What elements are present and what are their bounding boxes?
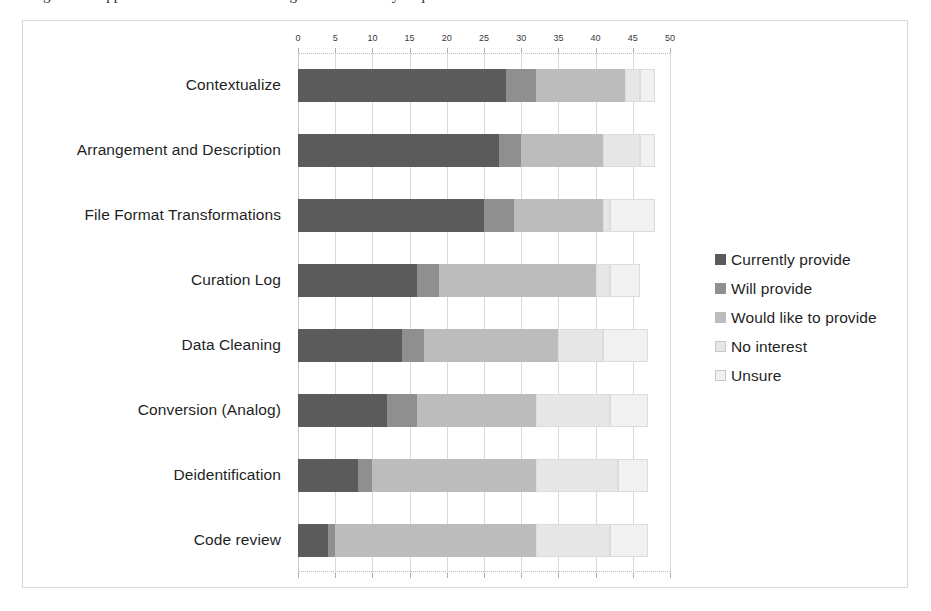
bar-segment[interactable] [298, 394, 387, 427]
bar-row [298, 183, 670, 248]
bar-segment[interactable] [610, 264, 640, 297]
legend-label: Would like to provide [731, 309, 877, 327]
bar-segment[interactable] [610, 394, 647, 427]
bar-segment[interactable] [335, 524, 536, 557]
figure-caption-strip: Figure 4. Support services offered / wil… [0, 0, 931, 14]
bar-row [298, 53, 670, 118]
category-label: Arrangement and Description [77, 141, 281, 159]
x-tick-bottom-40 [596, 573, 597, 578]
bar-segment[interactable] [603, 134, 640, 167]
x-tick-bottom-5 [335, 573, 336, 578]
category-label: Conversion (Analog) [138, 401, 281, 419]
bar-segment[interactable] [603, 329, 648, 362]
bar-segment[interactable] [625, 69, 640, 102]
bar-segment[interactable] [536, 524, 610, 557]
bar-segment[interactable] [536, 394, 610, 427]
category-label: Data Cleaning [181, 336, 281, 354]
bar-segment[interactable] [558, 329, 603, 362]
bar-track [298, 69, 670, 102]
x-tick-bottom-25 [484, 573, 485, 578]
bar-segment[interactable] [298, 199, 484, 232]
bar-track [298, 134, 670, 167]
bar-segment[interactable] [506, 69, 536, 102]
legend-label: Currently provide [731, 251, 851, 269]
bar-segment[interactable] [298, 329, 402, 362]
bar-track [298, 199, 670, 232]
bar-segment[interactable] [521, 134, 603, 167]
x-tick-bottom-10 [372, 573, 373, 578]
bar-row [298, 248, 670, 313]
bar-segment[interactable] [387, 394, 417, 427]
x-tick-top-50 [670, 48, 671, 53]
bar-row [298, 118, 670, 183]
bar-track [298, 524, 670, 557]
bar-segment[interactable] [484, 199, 514, 232]
bar-segment[interactable] [417, 394, 536, 427]
x-tick-label-10: 10 [367, 33, 377, 43]
bar-track [298, 394, 670, 427]
x-tick-label-5: 5 [333, 33, 338, 43]
x-tick-bottom-35 [558, 573, 559, 578]
x-tick-label-15: 15 [405, 33, 415, 43]
x-axis-tick-labels: 05101520253035404550 [298, 33, 670, 49]
y-axis-category-labels: ContextualizeArrangement and Description… [23, 53, 291, 573]
x-tick-label-50: 50 [665, 33, 675, 43]
x-tick-bottom-0 [298, 573, 299, 578]
bar-segment[interactable] [298, 264, 417, 297]
legend-swatch-icon [715, 254, 726, 265]
category-label: Code review [194, 531, 281, 549]
category-label: Contextualize [186, 76, 281, 94]
bar-row [298, 313, 670, 378]
bar-row [298, 508, 670, 573]
x-tick-bottom-50 [670, 573, 671, 578]
legend-item[interactable]: Currently provide [715, 245, 895, 274]
figure-caption: Figure 4. Support services offered / wil… [30, 0, 477, 4]
legend-item[interactable]: Would like to provide [715, 303, 895, 332]
bar-segment[interactable] [439, 264, 595, 297]
bar-segment[interactable] [640, 134, 655, 167]
legend-item[interactable]: Unsure [715, 361, 895, 390]
legend-swatch-icon [715, 341, 726, 352]
bar-segment[interactable] [402, 329, 424, 362]
bar-segment[interactable] [640, 69, 655, 102]
x-tick-label-35: 35 [553, 33, 563, 43]
plot-area [298, 53, 670, 573]
legend-label: Unsure [731, 367, 782, 385]
category-label: Curation Log [191, 271, 281, 289]
bar-segment[interactable] [424, 329, 558, 362]
bar-segment[interactable] [298, 459, 358, 492]
x-tick-bottom-45 [633, 573, 634, 578]
bar-segment[interactable] [514, 199, 603, 232]
legend-swatch-icon [715, 370, 726, 381]
x-tick-bottom-15 [410, 573, 411, 578]
legend-label: Will provide [731, 280, 812, 298]
bar-segment[interactable] [328, 524, 335, 557]
bar-segment[interactable] [499, 134, 521, 167]
x-tick-label-20: 20 [442, 33, 452, 43]
bar-segment[interactable] [618, 459, 648, 492]
bar-row [298, 443, 670, 508]
x-tick-label-25: 25 [479, 33, 489, 43]
bar-segment[interactable] [372, 459, 536, 492]
bar-segment[interactable] [610, 199, 655, 232]
x-tick-label-0: 0 [295, 33, 300, 43]
bar-segment[interactable] [417, 264, 439, 297]
bar-segment[interactable] [536, 69, 625, 102]
bar-segment[interactable] [596, 264, 611, 297]
legend-item[interactable]: Will provide [715, 274, 895, 303]
legend-item[interactable]: No interest [715, 332, 895, 361]
chart-legend: Currently provideWill provideWould like … [715, 245, 895, 390]
category-label: File Format Transformations [84, 206, 281, 224]
bar-row [298, 378, 670, 443]
bar-segment[interactable] [610, 524, 647, 557]
bar-segment[interactable] [298, 69, 506, 102]
bar-segment[interactable] [603, 199, 610, 232]
x-tick-label-45: 45 [628, 33, 638, 43]
bar-segment[interactable] [536, 459, 618, 492]
x-tick-label-40: 40 [591, 33, 601, 43]
legend-label: No interest [731, 338, 807, 356]
bar-segment[interactable] [298, 524, 328, 557]
bar-segment[interactable] [298, 134, 499, 167]
category-label: Deidentification [173, 466, 281, 484]
bar-segment[interactable] [358, 459, 373, 492]
